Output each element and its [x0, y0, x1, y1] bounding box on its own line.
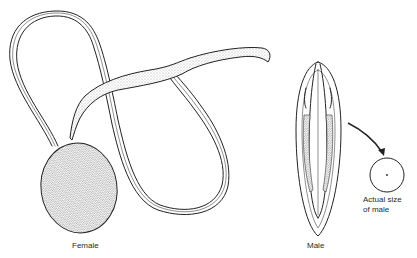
actual-size-line2: of male	[363, 205, 402, 215]
female-egg-body	[35, 138, 123, 238]
actual-size-caption: Actual size of male	[363, 195, 402, 215]
female-label: Female	[72, 241, 99, 251]
actual-size-circle	[370, 158, 404, 192]
male-worm	[296, 62, 341, 236]
female-worm	[10, 11, 270, 238]
worm-illustration	[0, 0, 417, 258]
actual-size-line1: Actual size	[363, 195, 402, 205]
female-head-arms	[70, 47, 270, 140]
arrow-icon	[348, 123, 385, 156]
male-label: Male	[307, 241, 324, 251]
